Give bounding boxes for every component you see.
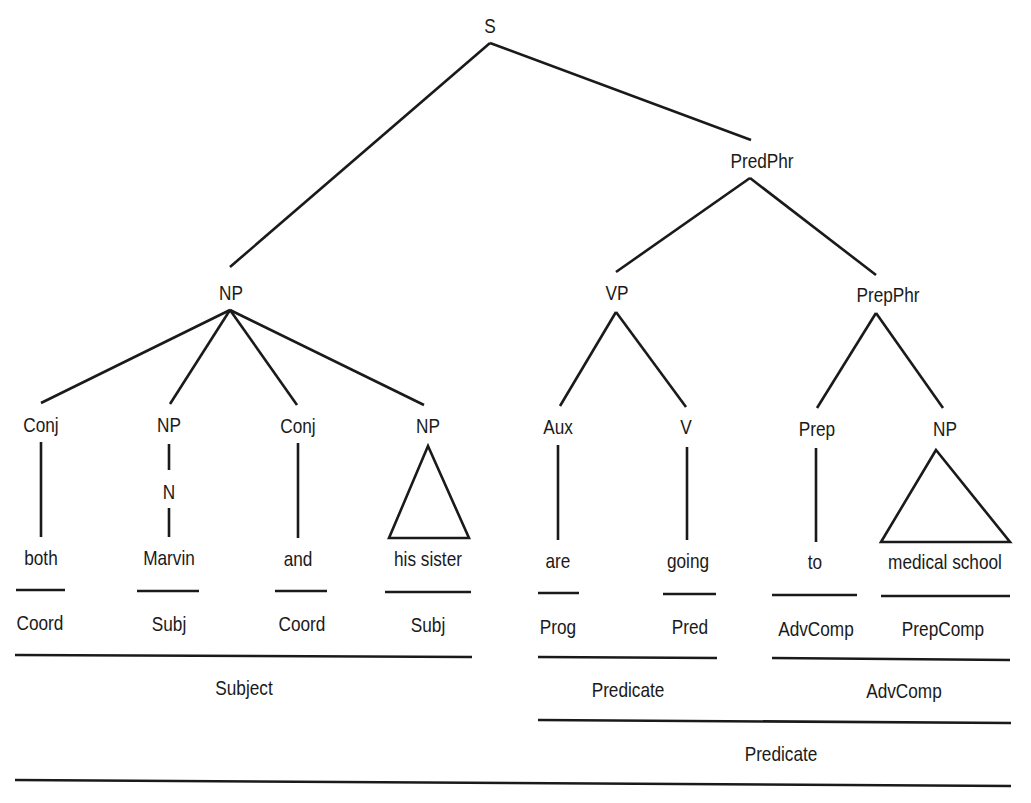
underline-sentence: [15, 780, 1011, 786]
node-conj2: Conj: [280, 414, 315, 437]
word-to: to: [808, 550, 822, 573]
word-and: and: [284, 547, 313, 570]
node-conj1: Conj: [23, 413, 58, 436]
word-are: are: [546, 549, 571, 572]
function-coord-both: Coord: [17, 611, 64, 634]
node-np-subject: NP: [219, 281, 243, 304]
edge-np-np-sister: [230, 310, 424, 405]
function-advcomp-to: AdvComp: [778, 617, 854, 640]
node-np-school: NP: [933, 417, 957, 440]
node-n-marvin: N: [163, 480, 175, 503]
edge-np-conj2: [230, 310, 297, 405]
function-subj-marvin: Subj: [152, 612, 186, 635]
underline-vp-group: [538, 657, 717, 658]
underline-predphr-group: [538, 720, 1011, 723]
function-subj-sister: Subj: [411, 613, 445, 636]
edge-s-np: [230, 43, 490, 267]
group-predicate: Predicate: [745, 742, 818, 765]
word-his-sister: his sister: [394, 547, 462, 570]
function-prog-are: Prog: [540, 615, 576, 638]
edge-predphr-vp: [616, 178, 750, 272]
node-np-sister: NP: [416, 414, 440, 437]
function-coord-and: Coord: [279, 612, 326, 635]
node-np-marvin: NP: [157, 413, 181, 436]
edge-s-predphr: [490, 43, 751, 140]
triangle-np-sister: [389, 446, 469, 538]
word-going: going: [667, 549, 709, 572]
edge-prepphr-prep: [817, 313, 876, 408]
underline-prepphr-group: [772, 658, 1010, 660]
group-vp-predicate: Predicate: [592, 678, 665, 701]
group-subject: Subject: [215, 676, 273, 699]
edge-vp-v: [616, 312, 686, 407]
edge-vp-aux: [560, 312, 616, 406]
group-advcomp: AdvComp: [866, 679, 942, 702]
word-both: both: [24, 546, 58, 569]
node-vp: VP: [606, 281, 629, 304]
underline-subject-group: [15, 655, 472, 657]
function-pred-going: Pred: [672, 615, 708, 638]
edge-prepphr-np: [876, 313, 943, 408]
word-marvin: Marvin: [143, 546, 195, 569]
node-s: S: [484, 14, 495, 37]
node-aux: Aux: [543, 415, 573, 438]
function-prepcomp-school: PrepComp: [902, 617, 984, 640]
word-medical-school: medical school: [888, 550, 1002, 573]
node-predphr: PredPhr: [730, 149, 794, 172]
node-v: V: [680, 415, 692, 438]
syntax-tree-diagram: S PredPhr NP VP PrepPhr Conj NP Conj NP …: [0, 0, 1031, 803]
node-prepphr: PrepPhr: [856, 283, 920, 306]
node-prep: Prep: [799, 417, 835, 440]
edge-predphr-prepphr: [750, 178, 876, 275]
triangle-np-school: [881, 450, 1010, 542]
